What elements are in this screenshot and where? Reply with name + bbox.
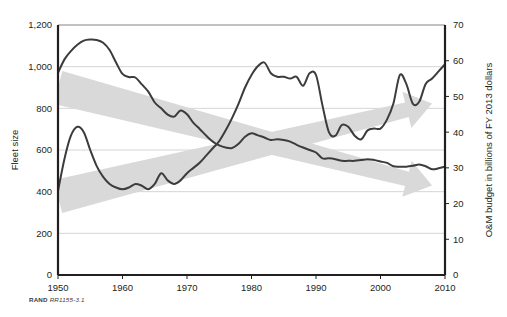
x-tick-label: 1980 [241,282,262,293]
x-tick-label: 1950 [47,282,68,293]
right-tick-label: 10 [453,234,464,245]
left-tick-label: 1,200 [28,19,52,30]
right-tick-label: 20 [453,198,464,209]
right-tick-label: 60 [453,55,464,66]
right-axis-title: O&M budget in billions of FY 2013 dollar… [483,62,494,237]
x-tick-label: 2000 [370,282,391,293]
chart-canvas: 02004006008001,0001,200 010203040506070 … [0,0,507,317]
left-tick-label: 400 [36,186,52,197]
left-tick-label: 1,000 [28,61,52,72]
x-tick-label: 1990 [305,282,326,293]
right-tick-label: 40 [453,127,464,138]
left-tick-label: 800 [36,103,52,114]
x-tick-label: 1960 [112,282,133,293]
left-tick-label: 200 [36,228,52,239]
left-axis-title: Fleet size [9,130,20,171]
x-tick-label: 1970 [176,282,197,293]
chart-figure: 02004006008001,0001,200 010203040506070 … [0,0,507,317]
left-tick-label: 600 [36,144,52,155]
right-tick-label: 30 [453,162,464,173]
right-tick-label: 70 [453,19,464,30]
x-tick-label: 2010 [434,282,455,293]
source-note-tag: RR1155-3.1 [48,296,85,303]
source-note: RANDRR1155-3.1 [29,296,85,303]
source-note-brand: RAND [29,296,48,303]
left-tick-label: 0 [47,269,52,280]
right-tick-label: 50 [453,91,464,102]
right-tick-label: 0 [453,269,458,280]
